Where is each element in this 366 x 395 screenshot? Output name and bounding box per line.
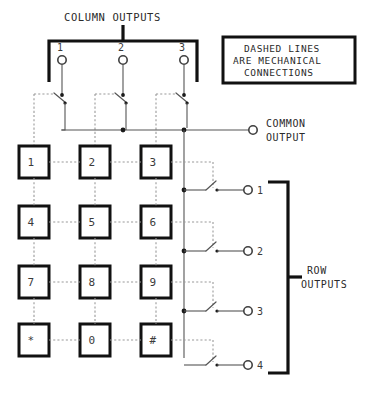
row-switch-blade-3[interactable] [206, 302, 216, 311]
row-terminal-4[interactable] [244, 361, 252, 369]
common-bus-junction-2 [121, 128, 126, 133]
row-terminal-3[interactable] [244, 307, 252, 315]
key-label-3: 3 [149, 156, 156, 169]
column-terminal-1[interactable] [58, 56, 66, 64]
mech-row-link-a-switch [171, 162, 213, 188]
key-label-hash: # [149, 334, 156, 347]
key-label-0: 0 [88, 334, 95, 347]
row-outputs-label-line2: OUTPUTS [301, 279, 347, 290]
column-terminal-label-2: 2 [118, 42, 125, 53]
row-outputs-bracket [268, 182, 288, 373]
row-switch-blade-2[interactable] [206, 242, 216, 251]
column-outputs-label: COLUMN OUTPUTS [64, 11, 161, 23]
mech-row-link-c-switch [171, 282, 213, 308]
row-terminal-2[interactable] [244, 247, 252, 255]
row-switch-blade-1[interactable] [206, 181, 216, 190]
note-line-3: CONNECTIONS [244, 67, 314, 78]
key-label-star: * [27, 334, 34, 347]
key-label-1: 1 [27, 156, 34, 169]
row-terminal-label-4: 4 [257, 360, 264, 371]
key-label-8: 8 [88, 276, 95, 289]
key-label-4: 4 [27, 216, 34, 229]
common-output-label-line2: OUTPUT [266, 132, 306, 143]
row-terminal-label-2: 2 [257, 246, 264, 257]
keypad-matrix-diagram: COLUMN OUTPUTS 1 2 3 DASHED LINES ARE ME… [0, 0, 366, 395]
column-switch-blade-3[interactable] [176, 93, 188, 103]
key-label-6: 6 [149, 216, 156, 229]
column-contact-dot-3 [182, 93, 186, 97]
schematic-canvas: COLUMN OUTPUTS 1 2 3 DASHED LINES ARE ME… [0, 0, 366, 395]
row-switch-blade-4[interactable] [206, 356, 216, 365]
common-output-label-line1: COMMON [266, 118, 306, 129]
column-terminal-label-3: 3 [179, 42, 186, 53]
key-label-5: 5 [88, 216, 95, 229]
mech-row-link-d-switch [171, 340, 213, 362]
key-label-9: 9 [149, 276, 156, 289]
key-label-7: 7 [27, 276, 34, 289]
column-contact-dot-2 [121, 93, 125, 97]
row-terminal-1[interactable] [244, 186, 252, 194]
column-terminal-2[interactable] [119, 56, 127, 64]
column-contact-dot-1 [60, 93, 64, 97]
mech-row-link-b-switch [171, 222, 213, 248]
row-terminal-label-1: 1 [257, 185, 264, 196]
column-terminal-3[interactable] [180, 56, 188, 64]
note-line-2: ARE MECHANICAL [233, 55, 321, 66]
column-switch-blade-2[interactable] [115, 93, 127, 103]
row-outputs-label-line1: ROW [307, 265, 327, 276]
column-switch-out-wire-1 [62, 103, 65, 130]
column-switch-blade-1[interactable] [54, 93, 66, 103]
row-terminal-label-3: 3 [257, 306, 264, 317]
column-terminal-label-1: 1 [57, 42, 64, 53]
note-line-1: DASHED LINES [244, 43, 320, 54]
common-output-terminal[interactable] [249, 126, 257, 134]
key-label-2: 2 [88, 156, 95, 169]
